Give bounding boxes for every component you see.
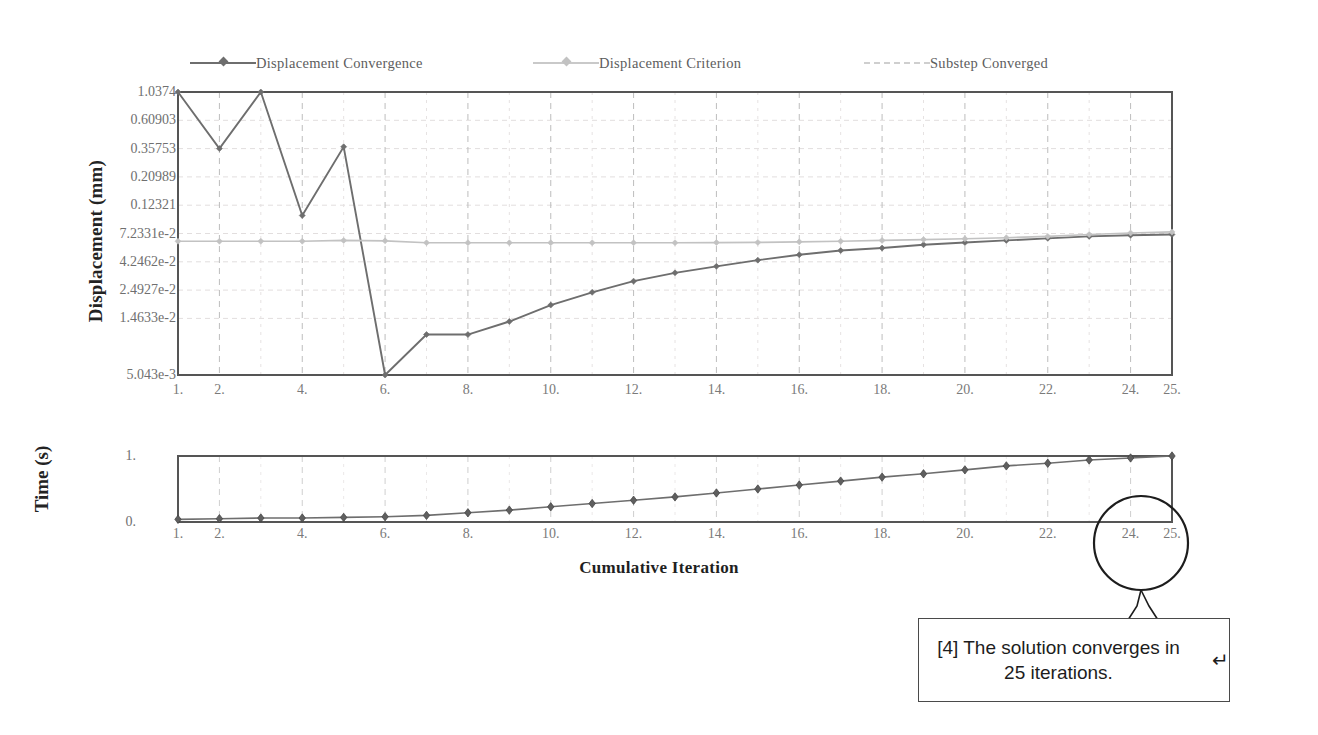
y-axis-tick-label: 0.35753 [131,141,177,157]
y-axis-tick-labels-time: 1.0. [96,440,136,540]
data-point-marker [920,470,926,478]
x-axis-tick-label-time: 12. [625,526,643,542]
data-point-marker [838,248,844,254]
x-axis-tick-label: 16. [791,382,809,398]
y-axis-tick-label: 1.4633e-2 [120,310,176,326]
data-point-marker [506,506,512,514]
x-axis-tick-label: 8. [463,382,474,398]
data-point-marker [465,509,471,517]
y-axis-tick-label: 2.4927e-2 [120,282,176,298]
legend-item-displacement-convergence: Displacement Convergence [190,50,423,76]
callout-leader-line-2 [1141,590,1158,620]
displacement-convergence-chart: Displacement (mm) 1.03740.609030.357530.… [0,80,1318,400]
legend-swatch-icon [864,56,930,70]
data-point-marker [548,240,554,246]
data-point-marker [879,245,885,251]
callout-box: [4] The solution converges in 25 iterati… [918,618,1230,702]
data-point-marker [796,481,802,489]
y-axis-tick-label: 0.12321 [131,197,177,213]
y-axis-tick-label: 0.60903 [131,112,177,128]
x-axis-tick-label: 6. [380,382,391,398]
callout-text: [4] The solution converges in 25 iterati… [919,635,1198,685]
data-point-marker [382,238,388,244]
data-point-marker [506,319,512,325]
bottom-plot-svg [0,440,1318,570]
legend-label: Displacement Convergence [256,55,423,72]
x-axis-tick-label-time: 22. [1039,526,1057,542]
y-axis-tick-label: 5.043e-3 [127,367,176,383]
y-axis-tick-label: 1.0374 [138,84,177,100]
data-point-marker [424,240,430,246]
legend-label: Substep Converged [930,55,1048,72]
x-axis-tick-label-time: 14. [708,526,726,542]
data-point-marker [630,496,636,504]
data-point-marker [465,332,471,338]
y-axis-tick-label: 0.20989 [131,169,177,185]
data-point-marker [837,477,843,485]
data-point-marker [713,240,719,246]
legend-swatch-icon [533,56,599,70]
data-point-marker [796,252,802,258]
x-axis-tick-label: 10. [542,382,560,398]
data-point-marker [465,240,471,246]
x-axis-tick-label: 24. [1122,382,1140,398]
figure-root: Displacement Convergence Displacement Cr… [0,0,1318,735]
legend-label: Displacement Criterion [599,55,741,72]
data-point-marker [589,240,595,246]
data-point-marker [631,278,637,284]
y-axis-tick-labels: 1.03740.609030.357530.209890.123217.2331… [58,80,176,380]
x-axis-tick-label-time: 8. [463,526,474,542]
data-point-marker [962,466,968,474]
data-point-marker [1169,452,1175,460]
x-axis-tick-label-time: 16. [791,526,809,542]
data-point-marker [713,263,719,269]
x-axis-tick-label: 22. [1039,382,1057,398]
x-axis-tick-label-time: 24. [1122,526,1140,542]
x-axis-tick-label: 2. [214,382,225,398]
legend-swatch-icon [190,56,256,70]
x-axis-tick-label-time: 10. [542,526,560,542]
x-axis-title: Cumulative Iteration [0,558,1318,578]
time-chart: Time (s) 1.0. 1.2.4.6.8.10.12.14.16.18.2… [0,440,1318,570]
data-point-marker [299,514,305,522]
callout-leader-line [1128,590,1141,620]
data-point-marker [382,513,388,521]
return-glyph-icon: ↵ [1198,648,1229,672]
data-point-marker [755,239,761,245]
data-point-marker [423,511,429,519]
y-axis-tick-label-time: 1. [126,448,137,464]
data-point-marker [921,237,927,243]
data-point-marker [838,238,844,244]
data-point-marker [340,513,346,521]
x-axis-tick-label-time: 2. [214,526,225,542]
data-point-marker [879,473,885,481]
data-point-marker [1086,456,1092,464]
x-axis-tick-labels: 1.2.4.6.8.10.12.14.16.18.20.22.24.25. [0,382,1318,404]
data-point-marker [216,238,222,244]
x-axis-tick-label-time: 18. [873,526,891,542]
data-point-marker [796,239,802,245]
x-axis-tick-label-time: 4. [297,526,308,542]
data-point-marker [548,503,554,511]
x-axis-tick-label-time: 20. [956,526,974,542]
x-axis-tick-label-time: 6. [380,526,391,542]
legend-item-substep-converged: Substep Converged [864,50,1048,76]
x-axis-tick-label: 4. [297,382,308,398]
x-axis-tick-label: 25. [1163,382,1181,398]
data-point-marker [879,237,885,243]
x-axis-tick-label: 12. [625,382,643,398]
data-point-marker [341,237,347,243]
x-axis-tick-label: 20. [956,382,974,398]
data-point-marker [1003,462,1009,470]
x-axis-tick-label-time: 1. [173,526,184,542]
data-point-marker [299,238,305,244]
data-point-marker [258,514,264,522]
data-point-marker [713,489,719,497]
chart-legend: Displacement Convergence Displacement Cr… [190,50,1150,76]
data-point-marker [258,238,264,244]
top-plot-svg [0,80,1318,400]
data-point-marker [589,499,595,507]
y-axis-title-time: Time (s) [31,419,53,539]
x-axis-tick-label: 14. [708,382,726,398]
data-point-marker [506,240,512,246]
